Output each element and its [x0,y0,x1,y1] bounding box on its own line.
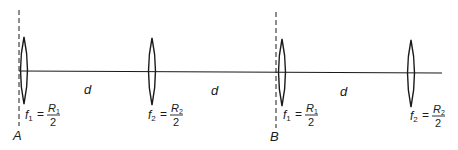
plane-label-a: A [12,128,22,143]
plane-label-b: B [270,129,279,144]
focal-formula-lens-2: f2 = R2 2 [148,102,183,128]
lens-4 [408,40,415,107]
svg-text:=: = [37,107,44,121]
svg-text:f2: f2 [410,109,418,124]
svg-text:R2: R2 [171,102,183,115]
svg-text:f2: f2 [148,108,156,123]
svg-text:2: 2 [308,116,314,128]
svg-text:R1: R1 [48,102,60,115]
svg-text:2: 2 [435,117,441,129]
svg-text:2: 2 [50,116,56,128]
focal-formula-lens-3: f1 = R1 2 [283,102,318,128]
svg-text:=: = [295,107,302,121]
focal-formula-lens-1: f1 = R1 2 [25,102,60,128]
optical-axis [19,71,442,73]
spacing-label-d-2: d [211,83,219,98]
spacing-label-d-1: d [84,82,92,97]
spacing-label-d-3: d [340,84,348,99]
focal-formula-lens-4: f2 = R2 2 [410,103,445,129]
svg-text:2: 2 [173,116,179,128]
svg-text:R1: R1 [306,102,318,115]
svg-text:f1: f1 [283,108,291,123]
svg-text:=: = [160,107,167,121]
lens-system-diagram: A B d d d f1 = R1 2 f2 = R2 2 f1 = R1 2 … [0,0,458,150]
svg-text:R2: R2 [433,103,445,116]
svg-text:=: = [422,108,429,122]
svg-text:f1: f1 [25,108,33,123]
